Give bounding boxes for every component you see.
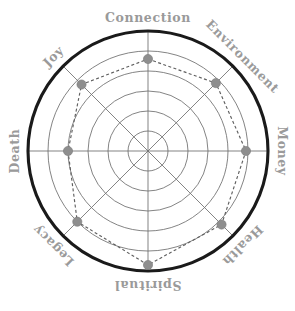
radar-chart: ConnectionEnvironmentMoneyHealthSpiritua… [0, 0, 295, 311]
axis-spoke-environment [148, 66, 233, 151]
data-point-death[interactable] [63, 146, 72, 155]
axis-label-death: Death [7, 129, 22, 174]
data-point-environment[interactable] [211, 79, 220, 88]
axis-label-money: Money [275, 126, 290, 176]
series-polygon-group [68, 59, 246, 265]
data-point-joy[interactable] [77, 80, 86, 89]
data-point-spiritual[interactable] [143, 260, 152, 269]
axis-label-spiritual: Spiritual [115, 278, 182, 293]
data-points-group [63, 54, 250, 269]
radar-chart-canvas: ConnectionEnvironmentMoneyHealthSpiritua… [0, 0, 295, 311]
data-point-connection[interactable] [143, 54, 152, 63]
axis-spoke-joy [63, 66, 148, 151]
data-point-legacy[interactable] [73, 217, 82, 226]
data-point-health[interactable] [217, 220, 226, 229]
axis-label-connection: Connection [105, 10, 191, 25]
series-polygon [68, 59, 246, 265]
data-point-money[interactable] [241, 146, 250, 155]
